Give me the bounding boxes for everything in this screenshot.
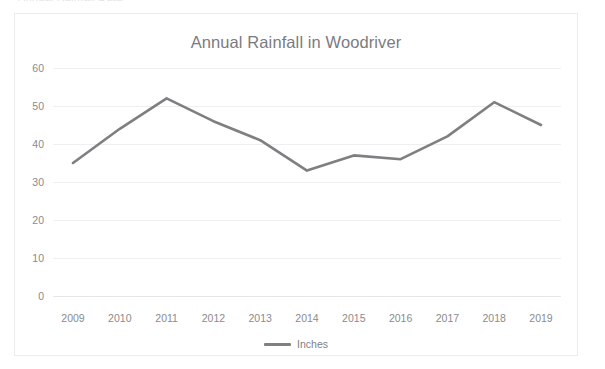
y-tick-label-20: 20 xyxy=(32,214,44,226)
x-tick-label-2013: 2013 xyxy=(249,312,272,324)
x-tick-label-2011: 2011 xyxy=(155,312,178,324)
x-tick-label-2014: 2014 xyxy=(295,312,318,324)
x-tick-label-2009: 2009 xyxy=(61,312,84,324)
y-tick-label-40: 40 xyxy=(32,138,44,150)
x-tick-label-2016: 2016 xyxy=(389,312,412,324)
y-tick-label-50: 50 xyxy=(32,100,44,112)
x-tick-label-2018: 2018 xyxy=(483,312,506,324)
series-inches-line xyxy=(53,68,561,296)
y-tick-label-0: 0 xyxy=(38,290,44,302)
legend-label-inches: Inches xyxy=(297,338,328,350)
x-tick-label-2017: 2017 xyxy=(436,312,459,324)
x-tick-label-2019: 2019 xyxy=(529,312,552,324)
y-tick-label-10: 10 xyxy=(32,252,44,264)
y-tick-label-30: 30 xyxy=(32,176,44,188)
x-tick-label-2015: 2015 xyxy=(342,312,365,324)
plot-area: 0102030405060 20092010201120122013201420… xyxy=(53,68,561,296)
chart-title: Annual Rainfall in Woodriver xyxy=(15,33,577,52)
x-tick-label-2012: 2012 xyxy=(202,312,225,324)
y-tick-label-60: 60 xyxy=(32,62,44,74)
clipped-header-text: Annual Rainfall Data xyxy=(18,0,248,5)
legend-swatch-inches xyxy=(264,343,291,346)
gridline-0 xyxy=(53,296,561,297)
x-tick-label-2010: 2010 xyxy=(108,312,131,324)
chart-container: Annual Rainfall in Woodriver 01020304050… xyxy=(14,13,578,356)
chart-legend: Inches xyxy=(15,338,577,350)
